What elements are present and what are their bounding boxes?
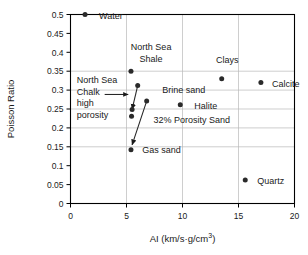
- x-axis-title-base: AI (km/s·g/cm: [150, 233, 209, 244]
- y-tick-label: 0.25: [47, 104, 64, 114]
- annotation-north-sea-chalk: high: [77, 98, 94, 108]
- y-tick-label: 0.45: [47, 29, 64, 39]
- y-tick-label: 0.2: [52, 123, 64, 133]
- data-point: [130, 107, 135, 112]
- y-tick-label: 0.3: [52, 85, 64, 95]
- data-point: [128, 69, 133, 74]
- x-axis-title-tail: ): [212, 233, 215, 244]
- y-axis-title: Poisson Ratio: [5, 80, 16, 139]
- x-tick-label: 15: [234, 211, 244, 221]
- annotation-brine-sand: Brine sand: [162, 85, 205, 95]
- point-label: Water: [99, 11, 123, 21]
- annotation-north-sea-shale: Shale: [140, 54, 163, 64]
- x-tick-label: 5: [124, 211, 129, 221]
- annotation-north-sea-chalk: Chalk: [77, 87, 101, 97]
- x-tick-label: 20: [290, 211, 300, 221]
- data-point: [83, 12, 88, 17]
- y-tick-label: 0.35: [47, 66, 64, 76]
- x-tick-label: 10: [178, 211, 188, 221]
- annotation-porosity-sand: 32% Porosity Sand: [153, 115, 230, 125]
- chart-canvas: 05101520 00.050.10.150.20.250.30.350.40.…: [0, 0, 308, 255]
- point-label: Quartz: [257, 176, 285, 186]
- poisson-ratio-vs-acoustic-impedance-chart: 05101520 00.050.10.150.20.250.30.350.40.…: [0, 0, 308, 255]
- data-point: [135, 83, 140, 88]
- annotation-north-sea-chalk: North Sea: [77, 75, 118, 85]
- y-tick-label: 0.15: [47, 142, 64, 152]
- annotation-gas-sand: Gas sand: [142, 145, 181, 155]
- y-tick-label: 0.05: [47, 180, 64, 190]
- point-label: Halite: [194, 101, 217, 111]
- point-label: Calcite: [272, 79, 300, 89]
- x-tick-label: 0: [68, 211, 73, 221]
- data-point: [128, 147, 133, 152]
- y-tick-label: 0.4: [52, 48, 64, 58]
- annotation-north-sea-chalk: porosity: [77, 110, 109, 120]
- y-tick-label: 0.1: [52, 161, 64, 171]
- data-point: [258, 80, 263, 85]
- data-point: [243, 178, 248, 183]
- data-point: [129, 114, 134, 119]
- data-point: [144, 99, 149, 104]
- x-axis-title: AI (km/s·g/cm3): [150, 232, 216, 244]
- y-tick-label: 0.5: [52, 10, 64, 20]
- data-point: [219, 76, 224, 81]
- y-tick-label: 0: [59, 199, 64, 209]
- annotation-clays: Clays: [216, 55, 239, 65]
- data-point: [178, 102, 183, 107]
- annotation-north-sea-shale: North Sea: [131, 42, 172, 52]
